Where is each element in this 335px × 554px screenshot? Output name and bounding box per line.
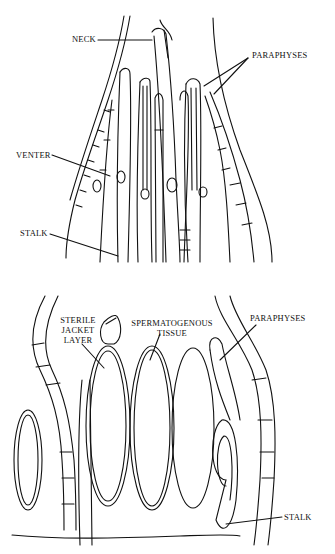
stalk-leader-bottom (226, 517, 282, 524)
label-venter: VENTER (16, 150, 51, 160)
label-neck: NECK (72, 34, 96, 44)
label-stalk-bottom: STALK (284, 512, 312, 522)
label-sterile-line1: STERILE (56, 315, 100, 325)
label-spermatogenous-tissue: SPERMATOGENOUS TISSUE (130, 318, 214, 338)
archegonia-drawing (0, 0, 335, 554)
label-sperm-line1: SPERMATOGENOUS (130, 318, 214, 328)
label-sterile-jacket-layer: STERILE JACKET LAYER (56, 315, 100, 345)
sterile-leader (82, 344, 104, 368)
label-paraphyses-bottom: PARAPHYSES (250, 313, 306, 323)
venter-leader (52, 155, 110, 176)
label-sperm-line2: TISSUE (130, 328, 214, 338)
label-paraphyses-top: PARAPHYSES (252, 50, 308, 60)
label-sterile-line2: JACKET (56, 325, 100, 335)
label-stalk-top: STALK (20, 228, 48, 238)
stalk-leader-top (50, 234, 118, 256)
label-sterile-line3: LAYER (56, 335, 100, 345)
paraphyses-leader-bottom (220, 325, 256, 360)
